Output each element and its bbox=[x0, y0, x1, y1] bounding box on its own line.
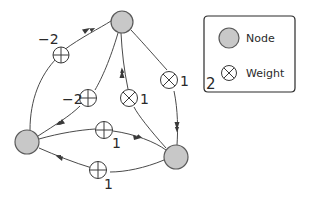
weighted-graph-diagram: −2 −2 1 1 1 bbox=[0, 0, 310, 199]
edge-top-to-left bbox=[38, 33, 118, 136]
weight-left-to-right: 1 bbox=[96, 122, 121, 152]
node-left bbox=[15, 130, 39, 154]
legend: Node Weight 2 bbox=[204, 16, 295, 93]
plus-circle-icon bbox=[96, 122, 113, 139]
figure-number: 2 bbox=[206, 75, 216, 93]
legend-weight-icon bbox=[222, 66, 237, 81]
cross-circle-icon bbox=[121, 90, 138, 107]
plus-circle-icon bbox=[53, 47, 69, 63]
node-right bbox=[164, 145, 188, 169]
weight-label: 1 bbox=[112, 135, 121, 151]
weight-label: −2 bbox=[38, 31, 59, 47]
weight-label: 1 bbox=[140, 91, 149, 107]
weight-top-to-right: 1 bbox=[161, 72, 189, 90]
weight-label: 1 bbox=[180, 73, 189, 89]
legend-node-label: Node bbox=[246, 32, 275, 45]
legend-node-icon bbox=[219, 28, 239, 48]
weight-right-to-left: 1 bbox=[90, 162, 113, 193]
weight-top-to-left: −2 bbox=[62, 90, 97, 108]
weight-right-to-top: 1 bbox=[121, 90, 149, 108]
weight-left-to-top: −2 bbox=[38, 31, 69, 63]
node-top bbox=[111, 11, 133, 33]
legend-weight-label: Weight bbox=[246, 67, 285, 80]
weight-label: 1 bbox=[104, 176, 113, 192]
cross-circle-icon bbox=[161, 72, 178, 89]
weight-label: −2 bbox=[62, 91, 83, 107]
